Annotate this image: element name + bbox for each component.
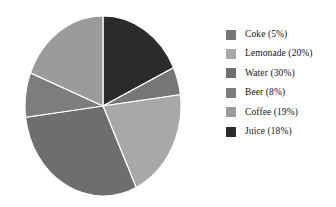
- legend-swatch-juice: [226, 127, 236, 137]
- legend-item[interactable]: Lemonade (20%): [226, 44, 336, 63]
- legend-item-label: Juice (18%): [245, 127, 292, 137]
- legend-item[interactable]: Juice (18%): [226, 122, 336, 141]
- legend-swatch-lemonade: [226, 49, 236, 59]
- legend-swatch-water: [226, 68, 236, 78]
- legend-item[interactable]: Coke (5%): [226, 25, 336, 44]
- chart-plot-area: [0, 0, 200, 207]
- chart-legend: Coke (5%)Lemonade (20%)Water (30%)Beer (…: [226, 25, 336, 141]
- legend-item-label: Beer (8%): [245, 88, 285, 98]
- legend-item-label: Lemonade (20%): [245, 49, 313, 59]
- legend-swatch-beer: [226, 88, 236, 98]
- legend-item[interactable]: Coffee (19%): [226, 103, 336, 122]
- legend-swatch-coke: [226, 30, 236, 40]
- legend-item-label: Coke (5%): [245, 30, 287, 40]
- legend-item[interactable]: Water (30%): [226, 64, 336, 83]
- legend-item-label: Coffee (19%): [245, 108, 298, 118]
- pie-chart: [25, 16, 181, 196]
- legend-swatch-coffee: [226, 107, 236, 117]
- pie-chart-figure: Coke (5%)Lemonade (20%)Water (30%)Beer (…: [0, 0, 336, 207]
- legend-item[interactable]: Beer (8%): [226, 83, 336, 102]
- pie-slice-group: [25, 16, 181, 196]
- legend-item-label: Water (30%): [245, 69, 295, 79]
